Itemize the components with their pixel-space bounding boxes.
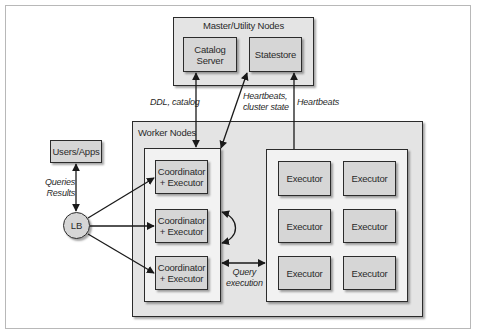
ddl-catalog-label: DDL, catalog [150, 97, 200, 108]
executor-6: Executor [343, 256, 396, 290]
executor-3: Executor [278, 209, 331, 243]
executor-label: Executor [287, 221, 323, 232]
coordinator-executor-2: Coordinator + Executor [155, 209, 208, 243]
users-apps: Users/Apps [50, 140, 102, 163]
executor-label: Executor [352, 173, 388, 184]
catalog-server: Catalog Server [183, 37, 237, 72]
coordinator-executor-3: Coordinator + Executor [155, 256, 208, 290]
query-execution-label: Query execution [226, 267, 263, 289]
executor-2: Executor [343, 161, 396, 196]
executor-4: Executor [343, 209, 396, 243]
coordinator-label: Coordinator + Executor [158, 262, 205, 284]
queries-results-label: Queries Results [45, 177, 75, 199]
executor-5: Executor [278, 256, 331, 290]
executor-label: Executor [352, 268, 388, 279]
coordinator-executor-1: Coordinator + Executor [155, 160, 208, 194]
executor-label: Executor [352, 221, 388, 232]
executor-label: Executor [287, 173, 323, 184]
executor-1: Executor [278, 161, 331, 196]
worker-title: Worker Nodes [138, 127, 196, 138]
load-balancer: LB [63, 212, 90, 239]
coordinator-label: Coordinator + Executor [158, 166, 205, 188]
catalog-server-label: Catalog Server [194, 44, 225, 66]
load-balancer-label: LB [71, 220, 83, 231]
statestore-label: Statestore [255, 49, 296, 60]
heartbeats-label: Heartbeats [297, 97, 339, 108]
executor-label: Executor [287, 268, 323, 279]
heartbeats-cluster-state-label: Heartbeats, cluster state [243, 91, 289, 113]
coordinator-label: Coordinator + Executor [158, 215, 205, 237]
statestore: Statestore [249, 37, 302, 72]
users-apps-label: Users/Apps [52, 146, 99, 157]
master-title: Master/Utility Nodes [173, 20, 314, 31]
